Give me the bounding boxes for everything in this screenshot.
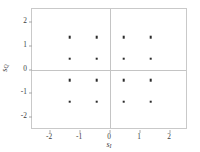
- data-point: [149, 58, 152, 61]
- data-point: [122, 58, 125, 61]
- data-point: [95, 58, 98, 61]
- data-point: [149, 36, 152, 39]
- data-point: [68, 36, 71, 39]
- x-axis-tick-label: -1: [76, 133, 82, 140]
- x-axis-tick-label: 1: [137, 133, 141, 140]
- vertical-zero-axis-line: [110, 9, 111, 128]
- y-axis-tick-label: 1: [7, 41, 27, 48]
- x-axis-label-subscript: I: [110, 143, 112, 149]
- x-axis-tick-label: 2: [167, 133, 171, 140]
- y-axis-tick: [29, 93, 32, 94]
- y-axis-tick: [29, 22, 32, 23]
- data-point: [68, 58, 71, 61]
- x-axis-tick-label: -2: [46, 133, 52, 140]
- data-point: [95, 100, 98, 103]
- y-axis-label: sQ: [1, 64, 10, 71]
- plot-area: [31, 8, 187, 129]
- data-point: [149, 79, 152, 82]
- data-point: [122, 79, 125, 82]
- data-point: [122, 100, 125, 103]
- y-axis-tick-label: -1: [7, 89, 27, 96]
- y-axis-tick: [29, 69, 32, 70]
- y-axis-tick: [29, 116, 32, 117]
- data-point: [95, 79, 98, 82]
- y-axis-label-subscript: Q: [3, 64, 9, 68]
- y-axis-tick: [29, 45, 32, 46]
- x-axis-label: sI: [106, 141, 111, 150]
- data-point: [68, 79, 71, 82]
- y-axis-tick-label: 2: [7, 17, 27, 24]
- data-point: [68, 100, 71, 103]
- constellation-figure: -2-1012-2-1012 sI sQ: [0, 0, 200, 152]
- data-point: [95, 36, 98, 39]
- horizontal-zero-axis-line: [32, 70, 186, 71]
- data-point: [122, 36, 125, 39]
- y-axis-tick-label: -2: [7, 112, 27, 119]
- data-point: [149, 100, 152, 103]
